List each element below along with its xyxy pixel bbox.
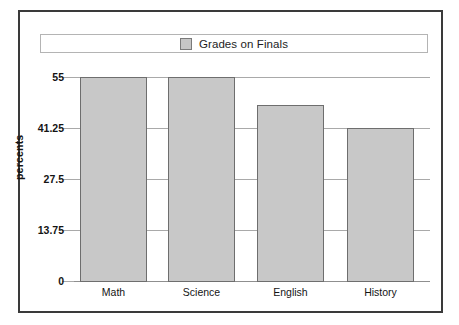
- legend-swatch-icon: [180, 38, 192, 50]
- legend-label: Grades on Finals: [199, 38, 288, 50]
- chart-frame-border: [18, 10, 443, 313]
- bar-chart-figure: Grades on Finals 55 41.25 27.5 13.75 0 p: [0, 0, 459, 325]
- chart-legend: Grades on Finals: [40, 34, 428, 53]
